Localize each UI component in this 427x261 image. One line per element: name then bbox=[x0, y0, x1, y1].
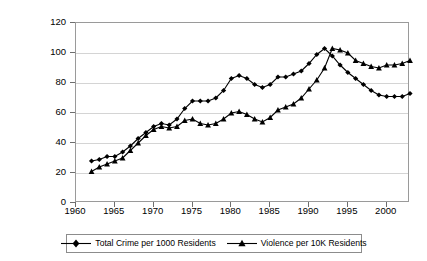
y-axis-tick-label: 20 bbox=[32, 167, 66, 177]
y-axis-tick-label: 80 bbox=[32, 77, 66, 87]
triangle-data-marker bbox=[236, 109, 242, 114]
triangle-data-marker bbox=[329, 46, 335, 51]
triangle-data-marker bbox=[190, 116, 196, 121]
diamond-data-marker bbox=[237, 73, 242, 78]
y-axis-tick-label: 120 bbox=[32, 17, 66, 27]
diamond-data-marker bbox=[97, 157, 102, 162]
triangle-data-marker bbox=[314, 77, 320, 82]
x-axis-tick-mark bbox=[269, 202, 270, 207]
diamond-data-marker bbox=[205, 98, 210, 103]
series-line bbox=[92, 49, 410, 172]
diamond-data-marker bbox=[89, 158, 94, 163]
y-axis-tick-label: 40 bbox=[32, 137, 66, 147]
triangle-data-marker bbox=[213, 121, 219, 126]
y-axis-tick-label: 60 bbox=[32, 107, 66, 117]
x-axis-tick-mark bbox=[230, 202, 231, 207]
plot-area bbox=[75, 22, 409, 202]
diamond-data-marker bbox=[283, 74, 288, 79]
x-axis-tick-label: 1990 bbox=[288, 206, 328, 216]
diamond-data-marker bbox=[376, 92, 381, 97]
x-axis-tick-label: 1970 bbox=[133, 206, 173, 216]
triangle-data-marker bbox=[252, 116, 258, 121]
legend-label-violence: Violence per 10K Residents bbox=[261, 239, 367, 248]
triangle-data-marker bbox=[322, 65, 328, 70]
x-axis-tick-mark bbox=[308, 202, 309, 207]
x-axis-tick-mark bbox=[192, 202, 193, 207]
series-lines bbox=[76, 23, 410, 203]
diamond-data-marker bbox=[400, 94, 405, 99]
x-axis-tick-label: 1965 bbox=[94, 206, 134, 216]
triangle-data-marker bbox=[197, 121, 203, 126]
x-axis-tick-mark bbox=[75, 202, 76, 207]
diamond-data-marker bbox=[291, 71, 296, 76]
x-axis-tick-label: 1975 bbox=[172, 206, 212, 216]
diamond-data-marker bbox=[384, 94, 389, 99]
crime-trend-chart: Total Incidents per 1000 Residents Viole… bbox=[0, 0, 427, 261]
diamond-marker-icon bbox=[61, 238, 91, 249]
legend-item-violence: Violence per 10K Residents bbox=[227, 238, 367, 249]
x-axis-tick-label: 1980 bbox=[210, 206, 250, 216]
x-axis-tick-label: 2000 bbox=[366, 206, 406, 216]
diamond-data-marker bbox=[392, 94, 397, 99]
x-axis-tick-label: 1995 bbox=[327, 206, 367, 216]
diamond-data-marker bbox=[198, 98, 203, 103]
x-axis-tick-mark bbox=[386, 202, 387, 207]
triangle-data-marker bbox=[89, 169, 95, 174]
diamond-data-marker bbox=[260, 85, 265, 90]
diamond-data-marker bbox=[407, 91, 412, 96]
x-axis-tick-mark bbox=[153, 202, 154, 207]
chart-legend: Total Crime per 1000 Residents Violence … bbox=[66, 234, 362, 253]
x-axis-tick-label: 1960 bbox=[55, 206, 95, 216]
x-axis-tick-label: 1985 bbox=[249, 206, 289, 216]
legend-item-total-crime: Total Crime per 1000 Residents bbox=[61, 238, 215, 249]
diamond-data-marker bbox=[104, 154, 109, 159]
x-axis-tick-mark bbox=[114, 202, 115, 207]
y-axis-tick-label: 100 bbox=[32, 47, 66, 57]
legend-label-total-crime: Total Crime per 1000 Residents bbox=[95, 239, 215, 248]
x-axis-tick-mark bbox=[347, 202, 348, 207]
triangle-data-marker bbox=[407, 58, 413, 63]
triangle-marker-icon bbox=[227, 238, 257, 249]
